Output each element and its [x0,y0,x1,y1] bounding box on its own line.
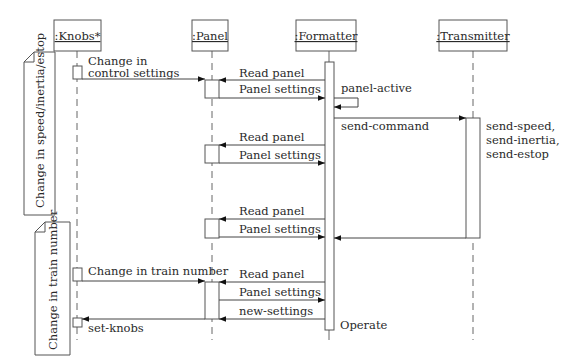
formatter-activation [325,62,334,330]
msg-change-train-number-label: Change in train number [88,264,229,278]
msg-panel-settings-4-label: Panel settings [239,285,321,299]
object-transmitter-label: :Transmitter [436,29,510,43]
msg-send-command-label: send-command [341,119,430,133]
msg-panel-active-label: panel-active [341,81,412,95]
msg-panel-settings-2-label: Panel settings [239,148,321,162]
object-panel-label: :Panel [192,29,228,43]
object-transmitter: :Transmitter [436,20,510,51]
msg-panel-settings-1-label: Panel settings [239,82,321,96]
object-knobs-label: :Knobs* [55,29,101,43]
formatter-operate-label: Operate [340,318,388,332]
note-change-speed-text: Change in speed/inertia/estop [33,33,47,208]
knobs-activation-2 [73,268,82,281]
msg-read-panel-1-label: Read panel [239,66,305,80]
sequence-diagram: :Knobs* :Panel :Formatter :Transmitter C… [0,0,572,363]
transmitter-command-1: send-speed, [486,119,555,133]
object-formatter-label: :Formatter [295,29,358,43]
msg-set-knobs-label: set-knobs [88,321,144,335]
knobs-activation-3 [73,318,82,327]
msg-new-settings-label: new-settings [239,304,313,318]
object-panel: :Panel [192,20,228,51]
note-change-train-text: Change in train number [46,209,60,350]
object-knobs: :Knobs* [54,20,101,51]
msg-change-control-settings-line2: control settings [88,66,180,80]
knobs-activation-1 [73,66,82,79]
msg-panel-active [334,98,358,107]
panel-activation-4 [205,282,219,319]
transmitter-command-3: send-estop [486,147,549,161]
note-change-train: Change in train number [35,209,70,355]
msg-read-panel-4-label: Read panel [239,267,305,281]
transmitter-command-2: send-inertia, [486,133,560,147]
panel-activation-2 [205,145,219,163]
msg-panel-settings-3-label: Panel settings [239,222,321,236]
panel-activation-3 [205,219,219,238]
msg-read-panel-2-label: Read panel [239,130,305,144]
note-change-speed: Change in speed/inertia/estop [24,33,55,215]
object-formatter: :Formatter [295,20,358,51]
panel-activation-1 [205,80,219,98]
msg-read-panel-3-label: Read panel [239,204,305,218]
transmitter-activation [466,118,480,238]
